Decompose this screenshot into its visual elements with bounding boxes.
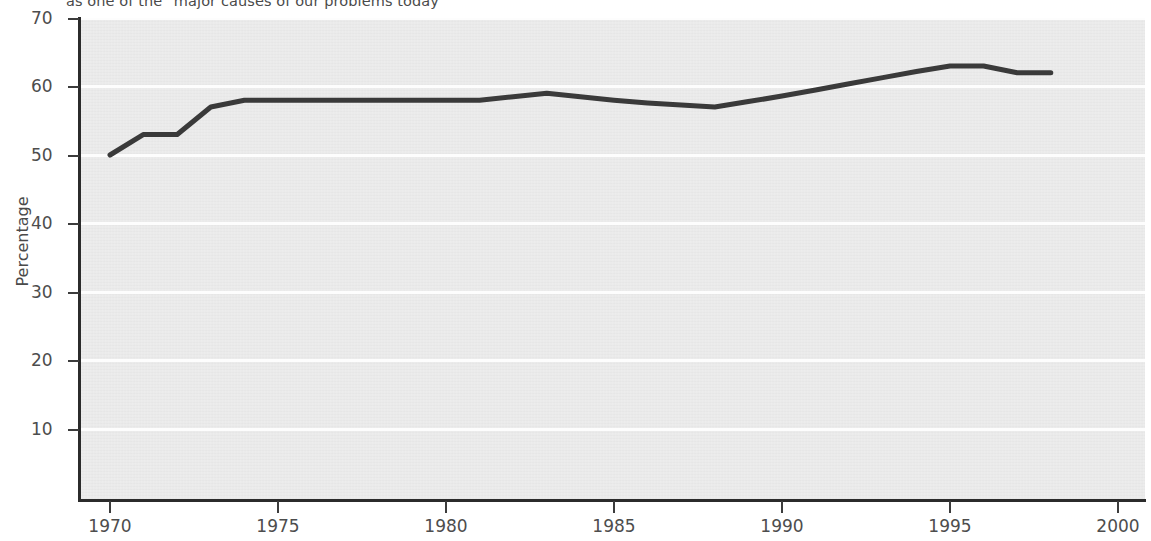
y-axis-title: Percentage bbox=[13, 177, 32, 307]
x-tick-mark-1970 bbox=[109, 501, 111, 513]
x-tick-label-1990: 1990 bbox=[760, 516, 803, 536]
plot-area bbox=[80, 18, 1145, 500]
y-tick-mark-40 bbox=[68, 223, 79, 225]
x-tick-label-1970: 1970 bbox=[88, 516, 131, 536]
y-tick-mark-70 bbox=[68, 18, 79, 20]
chart-title: as one of the "major causes of our probl… bbox=[66, 0, 439, 9]
x-tick-label-1980: 1980 bbox=[424, 516, 467, 536]
x-tick-label-1995: 1995 bbox=[928, 516, 971, 536]
gridline-30 bbox=[80, 291, 1145, 294]
x-tick-label-2000: 2000 bbox=[1096, 516, 1139, 536]
gridline-70 bbox=[80, 18, 1145, 20]
gridline-40 bbox=[80, 222, 1145, 225]
gridline-20 bbox=[80, 359, 1145, 362]
chart-figure: as one of the "major causes of our probl… bbox=[0, 0, 1151, 541]
x-tick-label-1985: 1985 bbox=[592, 516, 635, 536]
y-tick-mark-60 bbox=[68, 86, 79, 88]
gridline-60 bbox=[80, 85, 1145, 88]
y-tick-mark-50 bbox=[68, 155, 79, 157]
x-tick-mark-1980 bbox=[445, 501, 447, 513]
x-tick-mark-1985 bbox=[613, 501, 615, 513]
x-axis-line bbox=[78, 499, 1146, 502]
gridline-50 bbox=[80, 154, 1145, 157]
y-tick-mark-30 bbox=[68, 292, 79, 294]
x-tick-mark-1975 bbox=[277, 501, 279, 513]
x-tick-mark-2000 bbox=[1117, 501, 1119, 513]
y-tick-mark-20 bbox=[68, 360, 79, 362]
x-tick-label-1975: 1975 bbox=[256, 516, 299, 536]
y-tick-mark-10 bbox=[68, 429, 79, 431]
gridline-10 bbox=[80, 428, 1145, 431]
x-tick-mark-1995 bbox=[949, 501, 951, 513]
x-tick-mark-1990 bbox=[781, 501, 783, 513]
